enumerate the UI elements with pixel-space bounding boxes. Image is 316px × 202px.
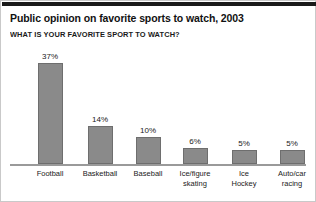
bar-value-label: 10% bbox=[140, 126, 156, 135]
bar-rect bbox=[88, 126, 113, 164]
bar-rect bbox=[232, 150, 257, 164]
chart-figure: Public opinion on favorite sports to wat… bbox=[0, 0, 316, 202]
bar-rect bbox=[280, 150, 305, 164]
bar-auto-car-racing: 5% bbox=[280, 150, 305, 164]
bar-value-label: 6% bbox=[189, 137, 201, 146]
header-rule bbox=[2, 2, 316, 6]
chart-title: Public opinion on favorite sports to wat… bbox=[10, 12, 244, 24]
bar-value-label: 37% bbox=[42, 52, 58, 61]
x-axis-line bbox=[10, 164, 306, 166]
plot-area: 37%14%10%6%5%5% bbox=[10, 47, 308, 167]
bar-basketball: 14% bbox=[88, 126, 113, 164]
bar-baseball: 10% bbox=[136, 137, 161, 164]
bar-rect bbox=[183, 148, 208, 164]
chart-subtitle: WHAT IS YOUR FAVORITE SPORT TO WATCH? bbox=[10, 30, 180, 39]
x-tick-label: Auto/car racing bbox=[256, 169, 316, 188]
bar-rect bbox=[136, 137, 161, 164]
bar-rect bbox=[38, 63, 63, 164]
bar-ice-hockey: 5% bbox=[232, 150, 257, 164]
bar-football: 37% bbox=[38, 63, 63, 164]
bar-value-label: 14% bbox=[92, 115, 108, 124]
bar-value-label: 5% bbox=[286, 139, 298, 148]
bar-ice-figure-skating: 6% bbox=[183, 148, 208, 164]
bar-value-label: 5% bbox=[238, 139, 250, 148]
